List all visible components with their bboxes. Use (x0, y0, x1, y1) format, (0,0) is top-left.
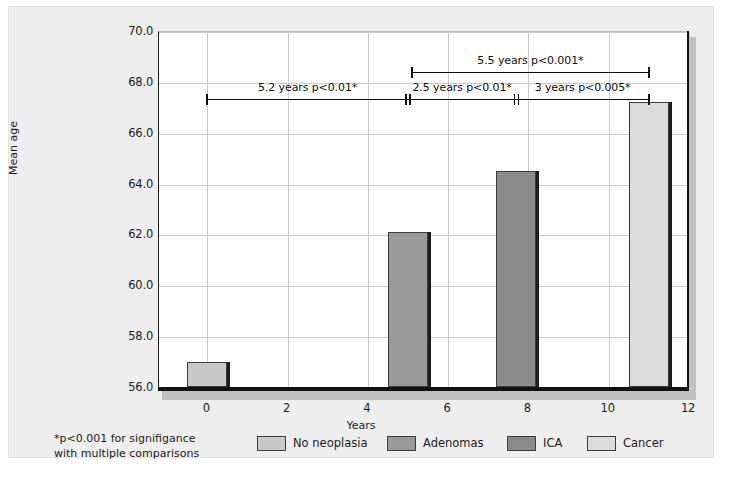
significance-bracket-cap (648, 94, 650, 105)
x-tick-label: 10 (601, 401, 615, 415)
legend-swatch (587, 436, 616, 451)
significance-bracket-cap (411, 67, 413, 78)
x-axis-shadow (162, 391, 696, 400)
legend-note-line-2: with multiple comparisons (54, 446, 199, 461)
significance-bracket-line (516, 99, 649, 100)
x-tick-label: 12 (681, 401, 695, 415)
legend-label: Adenomas (423, 435, 484, 451)
bar-cancer (629, 102, 669, 387)
significance-bracket-cap (409, 94, 411, 105)
y-tick-label: 56.0 (111, 380, 153, 394)
y-tick-label: 62.0 (111, 227, 153, 241)
legend-note-line-1: *p<0.001 for signifigance (54, 431, 199, 446)
legend-swatch (387, 436, 416, 451)
y-axis-title: Mean age (7, 121, 20, 175)
significance-bracket-cap (206, 94, 208, 105)
y-axis-ticks: 56.058.060.062.064.066.068.070.0 (105, 31, 153, 387)
legend-swatch (257, 436, 286, 451)
legend-label: No neoplasia (293, 435, 367, 451)
legend: *p<0.001 for signifigance with multiple … (9, 431, 713, 473)
x-axis-ticks: 024681012 (158, 401, 689, 419)
y-tick-label: 68.0 (111, 75, 153, 89)
y-tick-label: 58.0 (111, 329, 153, 343)
significance-bracket-label: 5.5 years p<0.001* (477, 54, 583, 67)
legend-swatch (507, 436, 536, 451)
significance-bracket-label: 3 years p<0.005* (535, 81, 631, 94)
significance-bracket-label: 5.2 years p<0.01* (258, 81, 357, 94)
plot-right-shadow (689, 37, 696, 394)
gridline-vertical (368, 32, 369, 387)
legend-label: ICA (543, 435, 562, 451)
gridline-vertical (207, 32, 208, 387)
y-tick-label: 60.0 (111, 278, 153, 292)
figure-panel: Mean age 56.058.060.062.064.066.068.070.… (8, 6, 714, 458)
legend-note: *p<0.001 for signifigance with multiple … (54, 431, 199, 461)
x-tick-label: 4 (363, 401, 370, 415)
plot-area: 5.2 years p<0.01*5.5 years p<0.001*2.5 y… (158, 31, 688, 387)
significance-bracket-cap (518, 94, 520, 105)
y-tick-label: 66.0 (111, 126, 153, 140)
significance-bracket-label: 2.5 years p<0.01* (412, 81, 511, 94)
significance-bracket-cap (405, 94, 407, 105)
significance-bracket-line (412, 72, 649, 73)
y-tick-label: 70.0 (111, 24, 153, 38)
figure-inner: Mean age 56.058.060.062.064.066.068.070.… (9, 7, 713, 457)
significance-bracket-line (207, 99, 408, 100)
x-tick-label: 2 (283, 401, 290, 415)
legend-label: Cancer (623, 435, 664, 451)
bar-ica (496, 171, 536, 387)
y-tick-label: 64.0 (111, 177, 153, 191)
x-tick-label: 6 (444, 401, 451, 415)
plot-right-edge (687, 31, 689, 388)
x-tick-label: 8 (524, 401, 531, 415)
x-tick-label: 0 (203, 401, 210, 415)
significance-bracket-line (408, 99, 516, 100)
x-axis-line (158, 387, 689, 391)
bar-no-neoplasia (187, 362, 227, 387)
significance-bracket-cap (514, 94, 516, 105)
bar-adenomas (388, 232, 428, 387)
significance-bracket-cap (648, 67, 650, 78)
